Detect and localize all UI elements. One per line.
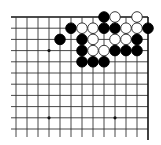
white-stone[interactable]	[121, 34, 132, 45]
black-stone[interactable]	[99, 23, 110, 34]
black-stone[interactable]	[143, 23, 154, 34]
black-stone[interactable]	[55, 34, 66, 45]
black-stone[interactable]	[77, 57, 88, 68]
white-stone[interactable]	[88, 34, 99, 45]
go-board-grid[interactable]	[0, 0, 161, 145]
black-stone[interactable]	[77, 45, 88, 56]
star-point	[47, 49, 50, 52]
white-stone[interactable]	[132, 12, 143, 23]
white-stone[interactable]	[132, 23, 143, 34]
go-board[interactable]	[0, 0, 161, 145]
black-stone[interactable]	[121, 45, 132, 56]
black-stone[interactable]	[110, 23, 121, 34]
white-stone[interactable]	[77, 23, 88, 34]
white-stone[interactable]	[121, 23, 132, 34]
white-stone[interactable]	[88, 45, 99, 56]
white-stone[interactable]	[88, 23, 99, 34]
black-stone[interactable]	[99, 57, 110, 68]
star-point	[47, 116, 50, 119]
black-stone[interactable]	[88, 57, 99, 68]
black-stone[interactable]	[99, 12, 110, 23]
star-point	[113, 116, 116, 119]
black-stone[interactable]	[66, 23, 77, 34]
black-stone[interactable]	[110, 45, 121, 56]
white-stone[interactable]	[110, 12, 121, 23]
white-stone[interactable]	[99, 45, 110, 56]
black-stone[interactable]	[132, 45, 143, 56]
black-stone[interactable]	[77, 34, 88, 45]
white-stone[interactable]	[110, 34, 121, 45]
black-stone[interactable]	[132, 34, 143, 45]
